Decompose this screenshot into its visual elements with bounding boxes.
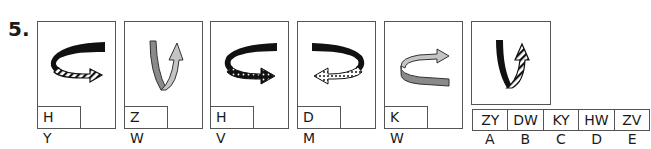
figure-card-4: D M [297,21,376,129]
figure-card-5: K W [384,21,463,129]
card-label: D M [297,106,341,129]
answer-letter-d: D [579,131,615,147]
card-label: H V [210,106,254,129]
card-label: K W [384,106,428,129]
answer-option-c[interactable]: KY [544,110,579,130]
answer-letter-a: A [472,131,508,147]
answer-letter-b: B [508,131,544,147]
answer-letter-c: C [543,131,579,147]
rotation-arrow-icon [472,22,552,106]
answer-letters: A B C D E [472,131,650,147]
answer-option-a[interactable]: ZY [473,110,508,130]
figure-card-1: H Y [37,21,116,129]
answer-option-d[interactable]: HW [579,110,614,130]
card-label: Z W [124,106,168,129]
card-label: H Y [37,106,81,129]
figure-card-2: Z W [124,21,203,129]
answer-option-e[interactable]: ZV [615,110,649,130]
question-number: 5. [8,17,30,41]
answer-options: ZY DW KY HW ZV [472,109,650,131]
question-figure-card [471,21,551,105]
figure-card-3: H V [210,21,289,129]
answer-option-b[interactable]: DW [508,110,543,130]
answer-letter-e: E [614,131,650,147]
